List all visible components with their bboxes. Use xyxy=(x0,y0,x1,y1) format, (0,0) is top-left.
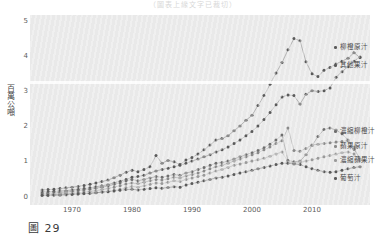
data-point xyxy=(257,158,260,161)
data-point xyxy=(299,150,302,153)
data-point xyxy=(221,137,224,140)
data-point xyxy=(209,143,212,146)
data-point xyxy=(221,148,224,151)
data-point xyxy=(233,173,236,176)
data-point xyxy=(143,188,146,191)
data-point xyxy=(203,174,206,177)
data-point xyxy=(275,163,278,166)
y-axis-tick-labels: 012345 xyxy=(4,15,28,205)
x-axis-tick: 1970 xyxy=(63,206,81,214)
data-point xyxy=(269,111,272,114)
data-point xyxy=(275,142,278,145)
data-point xyxy=(167,181,170,184)
data-point xyxy=(209,178,212,181)
data-point xyxy=(95,191,98,194)
data-point xyxy=(257,124,260,127)
data-point xyxy=(41,194,44,197)
data-point xyxy=(77,192,80,195)
data-point xyxy=(131,178,134,181)
data-point xyxy=(125,171,128,174)
data-point xyxy=(359,55,362,58)
y-axis-tick: 2 xyxy=(6,123,28,130)
data-point xyxy=(299,39,302,42)
data-point xyxy=(269,146,272,149)
data-point xyxy=(227,174,230,177)
data-point xyxy=(125,182,128,185)
data-point xyxy=(197,172,200,175)
data-point xyxy=(155,169,158,172)
data-point xyxy=(329,141,332,144)
x-axis-tick-labels: 19701980199020002010 xyxy=(30,206,370,218)
data-point xyxy=(281,61,284,64)
data-point xyxy=(179,186,182,189)
data-point xyxy=(113,183,116,186)
data-point xyxy=(311,167,314,170)
data-point xyxy=(323,155,326,158)
data-point xyxy=(119,189,122,192)
data-point xyxy=(251,114,254,117)
data-point xyxy=(221,168,224,171)
data-point xyxy=(317,143,320,146)
data-point xyxy=(89,192,92,195)
data-point xyxy=(257,104,260,107)
data-point xyxy=(329,127,332,130)
top-cut-text: （圖表上緣文字已裁切） xyxy=(0,0,385,11)
data-point xyxy=(311,72,314,75)
data-point xyxy=(233,160,236,163)
data-point xyxy=(251,160,254,163)
data-point xyxy=(167,159,170,162)
data-point xyxy=(281,162,284,165)
data-point xyxy=(197,175,200,178)
data-point xyxy=(173,185,176,188)
data-point xyxy=(311,158,314,161)
data-point xyxy=(113,176,116,179)
data-point xyxy=(221,164,224,167)
data-point xyxy=(239,138,242,141)
data-point xyxy=(143,168,146,171)
data-point xyxy=(269,83,272,86)
legend-label: 柳橙原汁 xyxy=(340,44,368,51)
data-point xyxy=(197,153,200,156)
data-point xyxy=(287,127,290,130)
data-point xyxy=(329,171,332,174)
data-point xyxy=(251,153,254,156)
data-point xyxy=(329,86,332,89)
data-point xyxy=(359,165,362,168)
plot-svg xyxy=(30,15,370,205)
data-point xyxy=(185,172,188,175)
y-axis-tick: 3 xyxy=(6,88,28,95)
data-point xyxy=(203,148,206,151)
data-point xyxy=(305,60,308,63)
data-point xyxy=(119,174,122,177)
data-point xyxy=(215,150,218,153)
data-point xyxy=(71,186,74,189)
data-point xyxy=(335,141,338,144)
data-point xyxy=(137,179,140,182)
data-point xyxy=(215,165,218,168)
data-point xyxy=(287,93,290,96)
data-point xyxy=(191,176,194,179)
data-point xyxy=(245,134,248,137)
legend-label: 濃縮蘋果汁 xyxy=(340,157,375,164)
data-point xyxy=(53,193,56,196)
data-point xyxy=(131,185,134,188)
data-point xyxy=(131,169,134,172)
data-point xyxy=(305,160,308,163)
plot-panel xyxy=(30,15,370,205)
data-point xyxy=(281,134,284,137)
legend-marker xyxy=(334,177,337,180)
data-point xyxy=(185,174,188,177)
data-point xyxy=(125,188,128,191)
data-point xyxy=(191,160,194,163)
data-point xyxy=(209,164,212,167)
data-point xyxy=(239,162,242,165)
legend-label: 其他果汁 xyxy=(340,62,368,69)
data-point xyxy=(221,176,224,179)
data-point xyxy=(167,174,170,177)
data-point xyxy=(101,191,104,194)
data-point xyxy=(197,157,200,160)
data-point xyxy=(353,166,356,169)
data-point xyxy=(209,153,212,156)
data-point xyxy=(287,48,290,51)
data-point xyxy=(65,186,68,189)
